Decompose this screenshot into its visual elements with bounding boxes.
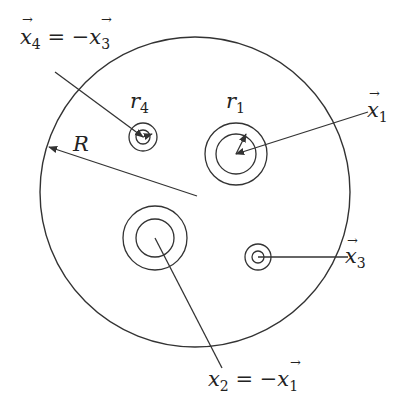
r4-radius-arrow [143,134,152,137]
x2-position-line [155,238,222,368]
x1-position-arrow [236,112,368,154]
label-R: R [72,132,89,156]
vector-arrow-glyph: → [22,12,33,27]
vector-arrow-glyph: → [347,233,358,248]
label-x1: x1 → [367,86,388,125]
vector-arrow-glyph: → [369,86,380,101]
svg-text:x1: x1 [367,98,388,125]
label-x2-eq-minus-x1: x2 = −x1 → [208,355,301,394]
domain-diagram: x4 = −x3 → → r4 r1 x1 → R x3 → x2 = −x1 … [0,0,408,410]
label-r4: r4 [130,89,149,116]
svg-text:x2 = −x1: x2 = −x1 [208,367,298,394]
vector-arrow-glyph: → [101,12,112,27]
svg-text:x3: x3 [345,244,366,271]
R-radius-arrow [49,147,197,196]
outer-domain-circle [40,37,350,347]
label-r1: r1 [226,89,245,116]
label-x4-eq-minus-x3: x4 = −x3 → → [20,12,112,52]
vector-arrow-glyph: → [290,355,301,370]
svg-text:x4 = −x3: x4 = −x3 [20,25,110,52]
label-x3: x3 → [345,233,366,271]
